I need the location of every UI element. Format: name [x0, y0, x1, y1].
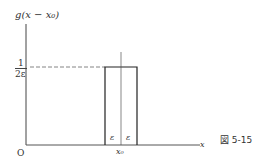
height-label-denominator: 2ε [15, 70, 25, 79]
height-label-numerator: 1 [18, 59, 24, 68]
x-axis-label: x [200, 141, 205, 149]
epsilon-right-label: ε [126, 134, 130, 142]
x0-label: x₀ [116, 148, 124, 156]
epsilon-left-label: ε [110, 134, 114, 142]
figure-caption: 図 5-15 [220, 136, 252, 145]
y-axis-label: g(x − x₀) [15, 10, 59, 20]
origin-label: O [17, 149, 24, 158]
